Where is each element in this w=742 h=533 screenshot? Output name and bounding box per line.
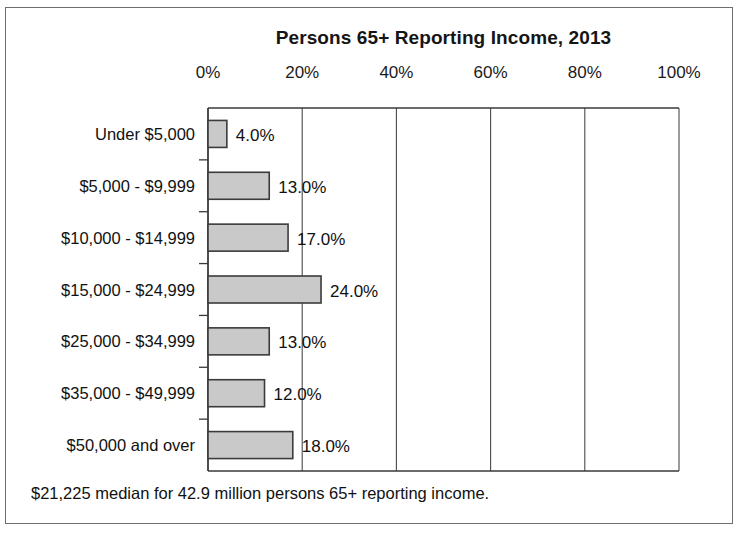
x-tick-label-20pct: 20% [285,63,319,82]
x-axis-tick-labels: 0%20%40%60%80%100% [196,63,701,82]
category-label-1: $5,000 - $9,999 [79,177,195,195]
bar-value-label-2: 17.0% [297,230,345,249]
bar-6 [208,432,293,459]
bar-1 [208,172,269,199]
x-tick-label-100pct: 100% [657,63,700,82]
category-label-6: $50,000 and over [67,436,196,454]
bar-chart-plot: 0%20%40%60%80%100% Under $5,000$5,000 - … [0,0,742,533]
bar-value-label-4: 13.0% [278,333,326,352]
bar-value-label-5: 12.0% [274,385,322,404]
bar-value-label-1: 13.0% [278,178,326,197]
bars-group [208,120,321,458]
bar-3 [208,276,321,303]
category-label-0: Under $5,000 [95,125,195,143]
category-label-2: $10,000 - $14,999 [61,229,195,247]
chart-footnote: $21,225 median for 42.9 million persons … [31,484,489,503]
chart-figure: Persons 65+ Reporting Income, 2013 0%20%… [0,0,742,533]
category-label-4: $25,000 - $34,999 [61,332,195,350]
axis-ticks-group [199,160,208,419]
bar-value-label-0: 4.0% [236,126,275,145]
category-label-3: $15,000 - $24,999 [61,281,195,299]
x-tick-label-0pct: 0% [196,63,221,82]
x-tick-label-60pct: 60% [474,63,508,82]
bar-value-label-6: 18.0% [302,437,350,456]
bar-2 [208,224,288,251]
bar-4 [208,328,269,355]
category-label-5: $35,000 - $49,999 [61,384,195,402]
bar-5 [208,380,265,407]
x-tick-label-80pct: 80% [568,63,602,82]
y-axis-category-labels: Under $5,000$5,000 - $9,999$10,000 - $14… [61,125,195,454]
bar-value-label-3: 24.0% [330,282,378,301]
x-tick-label-40pct: 40% [379,63,413,82]
bar-0 [208,120,227,147]
